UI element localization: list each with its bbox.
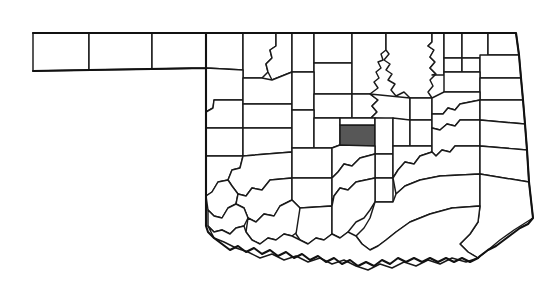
county-ne-7	[480, 55, 521, 78]
county-nw-corner	[206, 33, 243, 70]
county-n-5b	[314, 63, 352, 94]
county-n-5	[314, 33, 352, 63]
county-ne-3	[462, 33, 488, 58]
county-c-2	[243, 104, 292, 128]
county-ne-5	[444, 58, 462, 72]
county-m-8	[410, 120, 432, 146]
county-ne-2	[444, 33, 462, 58]
county-ne-6	[462, 58, 480, 72]
county-panhandle-west	[33, 33, 89, 71]
highlighted-county[interactable]	[340, 125, 375, 146]
county-m-1	[206, 128, 243, 156]
county-ne-9	[480, 78, 523, 100]
county-m-2	[243, 128, 292, 156]
county-c-6	[370, 94, 410, 120]
county-panhandle-east	[152, 33, 206, 69]
oklahoma-county-map	[0, 0, 558, 290]
county-c-4	[314, 94, 352, 118]
county-c-7	[410, 98, 432, 120]
county-ne-4	[488, 33, 519, 55]
county-m-5	[340, 118, 375, 125]
county-s-1	[292, 148, 332, 178]
map-figure: Outline map of the state of Oklahoma div…	[0, 0, 558, 290]
county-s-6	[480, 120, 527, 150]
county-panhandle-central	[89, 33, 152, 70]
county-s-9	[375, 178, 393, 202]
county-c-3	[292, 72, 314, 110]
county-s-7	[292, 178, 332, 208]
county-m-7	[393, 118, 410, 146]
county-ne-8	[444, 72, 480, 92]
county-s-3	[375, 154, 393, 178]
county-osage	[384, 33, 436, 98]
county-m-3	[292, 110, 314, 148]
county-m-6	[375, 118, 393, 154]
county-n-4	[292, 33, 314, 72]
county-m-4	[314, 118, 340, 148]
